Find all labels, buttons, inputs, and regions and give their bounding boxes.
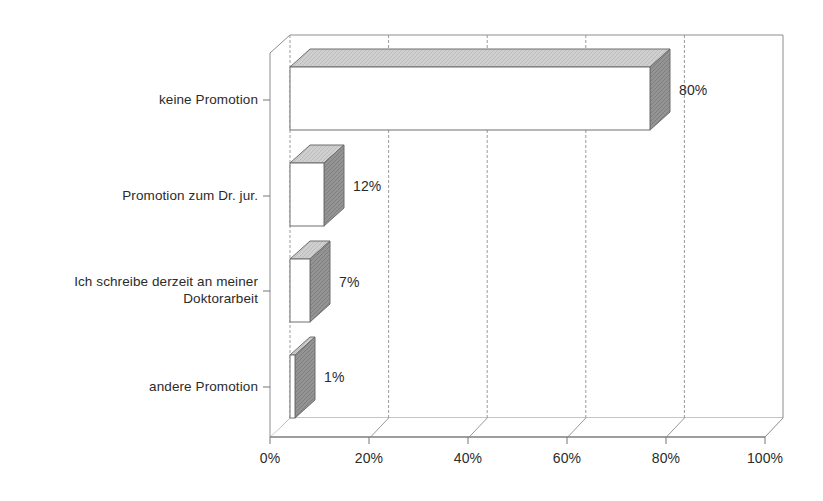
- bar-doktorarbeit[interactable]: [290, 241, 330, 322]
- x-axis: [270, 437, 765, 444]
- plot-floor: [270, 418, 783, 437]
- category-label-doktorarbeit: Ich schreibe derzeit an meiner Doktorarb…: [20, 273, 258, 307]
- xtick-label-60: 60%: [537, 450, 597, 466]
- value-label-andere-promotion: 1%: [324, 369, 344, 385]
- plot-left-wall: [270, 35, 290, 437]
- category-label-keine-promotion: keine Promotion: [20, 91, 258, 108]
- bar-promotion-dr-jur[interactable]: [290, 145, 344, 226]
- value-label-keine-promotion: 80%: [679, 82, 707, 98]
- bar-keine-promotion[interactable]: [290, 49, 670, 130]
- category-label-andere-promotion: andere Promotion: [20, 378, 258, 395]
- chart-canvas: [0, 0, 823, 501]
- xtick-label-100: 100%: [735, 450, 795, 466]
- value-label-promotion-dr-jur: 12%: [353, 178, 381, 194]
- xtick-label-40: 40%: [438, 450, 498, 466]
- xtick-label-0: 0%: [240, 450, 300, 466]
- chart-container: keine Promotion Promotion zum Dr. jur. I…: [0, 0, 823, 501]
- xtick-label-80: 80%: [636, 450, 696, 466]
- y-axis-ticks: [263, 100, 270, 387]
- xtick-label-20: 20%: [339, 450, 399, 466]
- value-label-doktorarbeit: 7%: [339, 274, 359, 290]
- category-label-promotion-dr-jur: Promotion zum Dr. jur.: [20, 187, 258, 204]
